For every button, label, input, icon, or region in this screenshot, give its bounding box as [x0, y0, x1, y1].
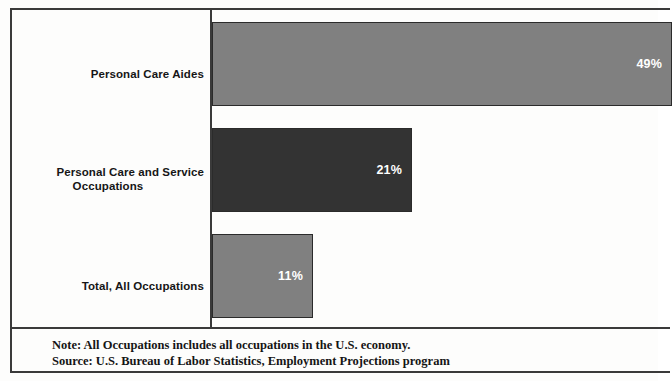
category-label-total-all-occupations: Total, All Occupations [12, 279, 204, 293]
bar-personal-care-aides: 49% [212, 22, 672, 106]
category-label-line-1: Personal Care Aides [12, 67, 204, 81]
category-label-personal-care-aides: Personal Care Aides [12, 67, 204, 81]
category-label-line-2: Occupations [12, 179, 204, 193]
plot-area: Personal Care Aides 49% Personal Care an… [12, 10, 658, 328]
category-label-personal-care-and-service-occupations: Personal Care and Service Occupations [12, 165, 204, 193]
category-label-line-1: Total, All Occupations [12, 279, 204, 293]
footnote-separator-line [10, 327, 670, 329]
note-text: Note: All Occupations includes all occup… [52, 337, 450, 353]
bar-total-all-occupations: 11% [212, 234, 313, 318]
source-text: Source: U.S. Bureau of Labor Statistics,… [52, 353, 450, 369]
footnote-block: Note: All Occupations includes all occup… [52, 337, 450, 369]
bar-value-label-personal-care-and-service-occupations: 21% [376, 163, 402, 177]
frame-bottom-border [10, 371, 670, 373]
bar-value-label-personal-care-aides: 49% [636, 57, 662, 71]
category-label-line-1: Personal Care and Service [12, 165, 204, 179]
bar-value-label-total-all-occupations: 11% [278, 269, 303, 283]
bar-personal-care-and-service-occupations: 21% [212, 128, 412, 212]
